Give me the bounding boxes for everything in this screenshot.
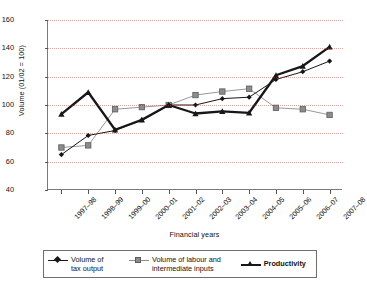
x-tick-mark bbox=[88, 190, 89, 194]
y-tick-mark bbox=[45, 77, 49, 78]
x-tick-mark bbox=[249, 190, 250, 194]
x-tick-label: 1999–00 bbox=[126, 195, 152, 221]
gridline bbox=[48, 20, 343, 21]
x-tick-label: 2001–02 bbox=[180, 195, 206, 221]
legend-label-line1: Productivity bbox=[264, 259, 306, 268]
legend-label: Volume of labour andintermediate inputs bbox=[152, 255, 221, 273]
y-tick-mark bbox=[45, 190, 49, 191]
x-tick-label: 2003–04 bbox=[234, 195, 260, 221]
y-tick-mark bbox=[45, 105, 49, 106]
square-marker-icon bbox=[129, 256, 149, 266]
gridline bbox=[48, 48, 343, 49]
y-tick-label: 40 bbox=[0, 185, 14, 194]
x-tick-label: 1997–98 bbox=[73, 195, 99, 221]
x-tick-label: 2002–03 bbox=[207, 195, 233, 221]
legend-label-line1: Volume of bbox=[71, 255, 103, 264]
x-tick-mark bbox=[169, 190, 170, 194]
x-tick-mark bbox=[115, 190, 116, 194]
legend-item[interactable]: Volume of labour andintermediate inputs bbox=[129, 255, 241, 273]
y-axis-title: Volume (01/02 = 100) bbox=[17, 16, 26, 146]
x-tick-label: 2007–08 bbox=[341, 195, 367, 221]
gridline bbox=[48, 77, 343, 78]
y-tick-label: 120 bbox=[0, 72, 14, 81]
legend-label: Volume oftax output bbox=[71, 255, 103, 273]
x-tick-mark bbox=[330, 190, 331, 194]
gridline bbox=[48, 133, 343, 134]
legend-label-line2: tax output bbox=[71, 264, 103, 273]
legend-item[interactable]: Productivity bbox=[241, 259, 312, 270]
legend-label-line1: Volume of labour and bbox=[152, 255, 221, 264]
diamond-marker-icon bbox=[48, 256, 68, 266]
y-tick-label: 100 bbox=[0, 100, 14, 109]
x-tick-label: 2005–06 bbox=[287, 195, 313, 221]
x-tick-mark bbox=[222, 190, 223, 194]
x-axis-title: Financial years bbox=[47, 230, 342, 239]
y-tick-mark bbox=[45, 20, 49, 21]
plot-area bbox=[47, 20, 342, 190]
legend-item[interactable]: Volume oftax output bbox=[48, 255, 129, 273]
chart-legend: Volume oftax outputVolume of labour andi… bbox=[43, 250, 317, 278]
y-tick-mark bbox=[45, 48, 49, 49]
legend-label-line2: intermediate inputs bbox=[152, 264, 221, 273]
y-tick-label: 160 bbox=[0, 15, 14, 24]
x-tick-label: 2006–07 bbox=[314, 195, 340, 221]
x-tick-mark bbox=[276, 190, 277, 194]
gridlines bbox=[48, 20, 343, 190]
triangle-marker-icon bbox=[241, 260, 261, 270]
x-tick-label: 1998–99 bbox=[99, 195, 125, 221]
x-tick-mark bbox=[303, 190, 304, 194]
x-tick-mark bbox=[142, 190, 143, 194]
x-tick-label: 2004–05 bbox=[260, 195, 286, 221]
y-tick-label: 80 bbox=[0, 128, 14, 137]
x-tick-label: 2000–01 bbox=[153, 195, 179, 221]
gridline bbox=[48, 105, 343, 106]
y-tick-label: 60 bbox=[0, 157, 14, 166]
y-tick-label: 140 bbox=[0, 43, 14, 52]
x-tick-mark bbox=[61, 190, 62, 194]
x-tick-mark bbox=[196, 190, 197, 194]
legend-label: Productivity bbox=[264, 259, 306, 268]
gridline bbox=[48, 162, 343, 163]
y-tick-mark bbox=[45, 133, 49, 134]
y-tick-mark bbox=[45, 162, 49, 163]
